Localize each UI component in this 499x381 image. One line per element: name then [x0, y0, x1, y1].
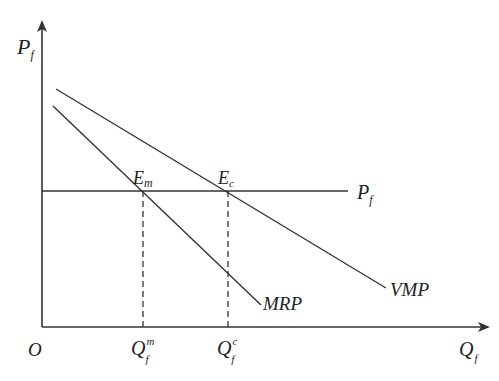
factor-market-diagram: Pf Em Ec Pf VMP MRP O Qmf Qcf Qf	[0, 0, 499, 381]
price-line-label: Pf	[356, 181, 374, 207]
mrp-label: MRP	[262, 293, 302, 314]
vmp-curve	[56, 89, 386, 288]
ec-label: Ec	[217, 168, 234, 189]
y-axis-label: Pf	[16, 34, 35, 62]
mrp-curve	[53, 106, 261, 305]
qm-tick-label: Qmf	[131, 335, 154, 365]
x-axis-label: Qf	[459, 338, 479, 364]
em-label: Em	[132, 168, 153, 190]
vmp-label: VMP	[390, 279, 429, 300]
qc-tick-label: Qcf	[217, 335, 237, 365]
origin-label: O	[28, 339, 42, 360]
